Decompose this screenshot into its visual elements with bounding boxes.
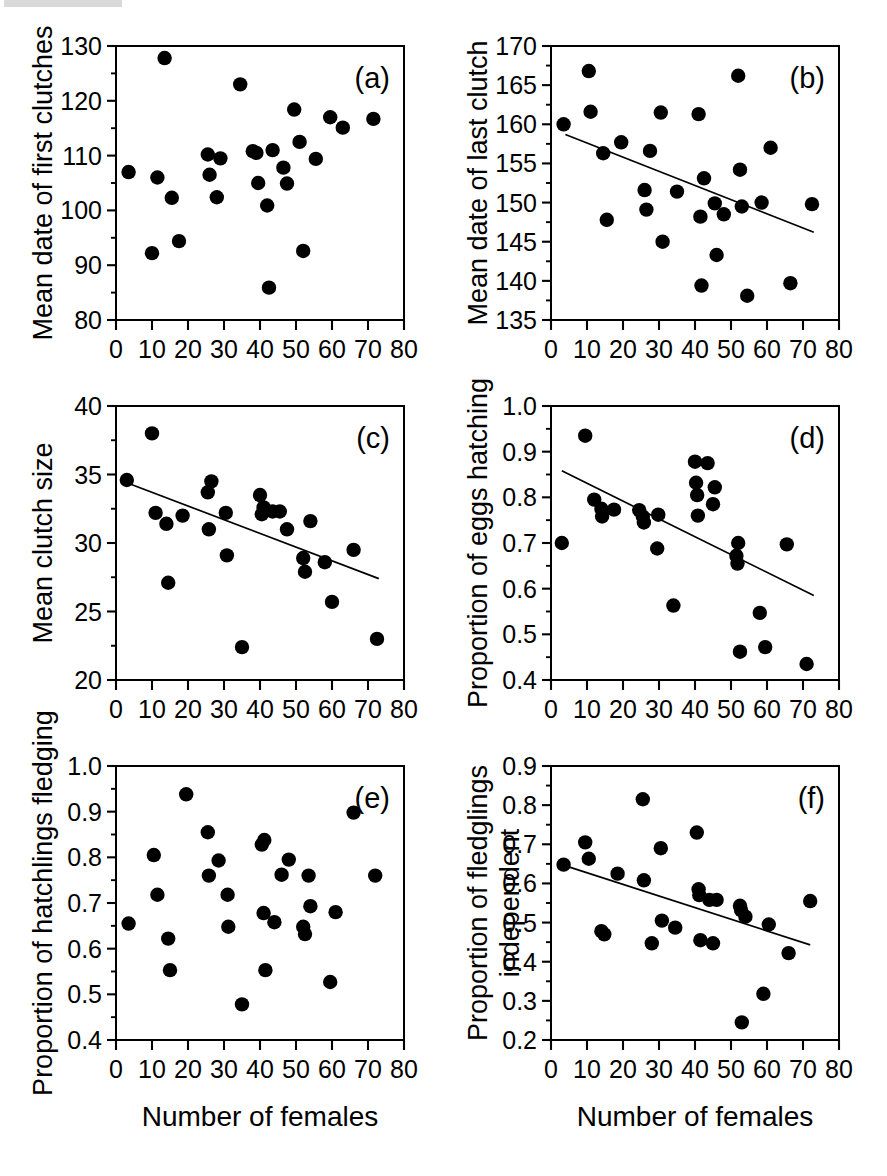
data-point	[161, 576, 175, 590]
data-point	[325, 595, 339, 609]
x-tick-label: 0	[544, 695, 558, 723]
x-axis-ticks: 01020304050607080	[544, 1040, 853, 1083]
data-points	[121, 51, 380, 295]
data-point	[145, 246, 159, 260]
y-tick-label: 0.7	[502, 529, 537, 557]
data-point	[265, 143, 279, 157]
y-tick-label: 0.9	[502, 752, 537, 780]
data-point	[780, 537, 794, 551]
data-point	[691, 107, 705, 121]
data-point	[668, 920, 682, 934]
y-tick-label: 25	[74, 598, 102, 626]
y-axis-ticks: 135140145150155160165170	[495, 32, 551, 334]
data-point	[257, 833, 271, 847]
x-tick-label: 50	[717, 335, 745, 363]
data-point	[639, 202, 653, 216]
x-tick-label: 70	[789, 335, 817, 363]
data-point	[597, 927, 611, 941]
x-tick-label: 30	[645, 1055, 673, 1083]
data-point	[693, 209, 707, 223]
panel-letter: (b)	[790, 62, 825, 94]
x-tick-label: 60	[318, 1055, 346, 1083]
y-tick-label: 0.9	[502, 438, 537, 466]
y-tick-label: 120	[60, 87, 102, 115]
data-point	[273, 504, 287, 518]
data-point	[637, 515, 651, 529]
data-point	[645, 936, 659, 950]
y-tick-label: 40	[74, 392, 102, 420]
data-point	[700, 456, 714, 470]
data-point	[253, 488, 267, 502]
data-points	[556, 792, 817, 1030]
data-point	[689, 476, 703, 490]
data-point	[309, 152, 323, 166]
data-point	[159, 517, 173, 531]
data-point	[161, 931, 175, 945]
x-axis-ticks: 01020304050607080	[109, 320, 418, 363]
y-tick-label: 0.7	[67, 889, 102, 917]
data-point	[654, 841, 668, 855]
data-point	[276, 160, 290, 174]
y-axis-label: Mean date of first clutches	[28, 25, 58, 340]
y-tick-label: 90	[74, 251, 102, 279]
x-axis-label: Number of females	[577, 1101, 814, 1132]
data-point	[636, 792, 650, 806]
panel-a: 809010011012013001020304050607080(a)Mean…	[0, 0, 452, 376]
panel-b: 1351401451501551601651700102030405060708…	[435, 0, 887, 376]
x-tick-label: 30	[210, 695, 238, 723]
data-point	[614, 135, 628, 149]
data-point	[688, 455, 702, 469]
data-point	[556, 117, 570, 131]
data-point	[287, 102, 301, 116]
data-point	[172, 234, 186, 248]
panel-c: 202530354001020304050607080(c)Mean clutc…	[0, 360, 452, 736]
data-point	[803, 894, 817, 908]
data-point	[578, 428, 592, 442]
x-tick-label: 40	[681, 1055, 709, 1083]
data-point	[201, 825, 215, 839]
data-point	[706, 497, 720, 511]
data-point	[368, 868, 382, 882]
x-tick-label: 0	[109, 1055, 123, 1083]
data-point	[296, 244, 310, 258]
y-axis-label: Mean clutch size	[28, 442, 58, 643]
data-point	[233, 77, 247, 91]
data-point	[282, 852, 296, 866]
x-tick-label: 70	[789, 1055, 817, 1083]
data-point	[303, 899, 317, 913]
y-tick-label: 110	[62, 142, 102, 170]
data-point	[731, 536, 745, 550]
data-points	[555, 428, 814, 671]
data-point	[301, 868, 315, 882]
x-tick-label: 0	[109, 335, 123, 363]
x-tick-label: 40	[246, 695, 274, 723]
data-point	[220, 888, 234, 902]
data-point	[610, 866, 624, 880]
x-tick-label: 30	[210, 335, 238, 363]
data-point	[709, 893, 723, 907]
data-point	[235, 640, 249, 654]
data-point	[753, 606, 767, 620]
y-tick-label: 80	[74, 306, 102, 334]
y-tick-label: 0.9	[67, 798, 102, 826]
data-point	[235, 997, 249, 1011]
x-tick-label: 70	[789, 695, 817, 723]
x-axis-ticks: 01020304050607080	[109, 680, 418, 723]
data-point	[733, 162, 747, 176]
data-point	[211, 853, 225, 867]
data-point	[204, 474, 218, 488]
x-tick-label: 30	[210, 1055, 238, 1083]
data-point	[781, 946, 795, 960]
x-tick-label: 50	[282, 335, 310, 363]
y-axis-label: Proportion of eggs hatching	[463, 378, 493, 708]
data-point	[147, 848, 161, 862]
data-point	[150, 888, 164, 902]
x-tick-label: 0	[544, 335, 558, 363]
axes-frame	[551, 766, 839, 1040]
x-tick-label: 80	[390, 1055, 418, 1083]
data-point	[731, 69, 745, 83]
data-point	[262, 280, 276, 294]
y-axis-label: independent	[495, 828, 525, 977]
y-axis-label: Proportion of fledglings	[463, 765, 493, 1041]
data-point	[323, 975, 337, 989]
